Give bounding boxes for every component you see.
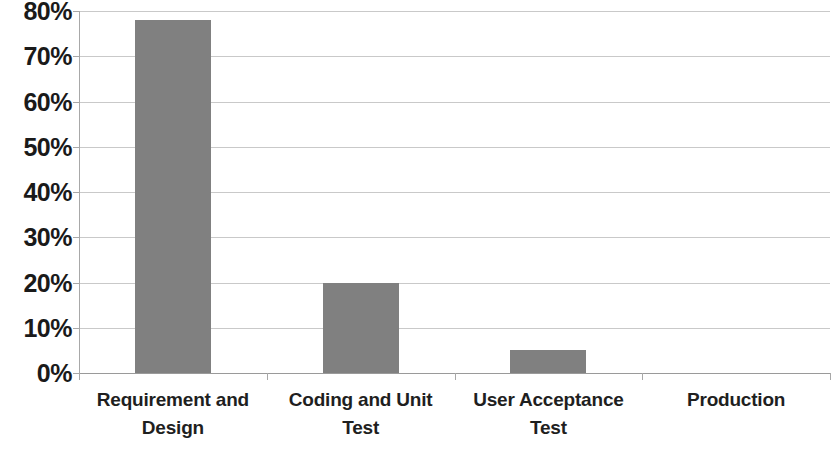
bar bbox=[323, 283, 399, 374]
y-axis-tick-label: 30% bbox=[6, 225, 72, 250]
bar bbox=[510, 350, 586, 373]
x-axis-tick bbox=[642, 373, 643, 380]
x-axis-category-label: Coding and Unit Test bbox=[267, 386, 455, 459]
y-axis-tick-label: 50% bbox=[6, 134, 72, 159]
bar-chart: 0%10%20%30%40%50%60%70%80% Requirement a… bbox=[0, 0, 835, 459]
y-axis-tick-label: 20% bbox=[6, 270, 72, 295]
x-axis-labels: Requirement and DesignCoding and Unit Te… bbox=[79, 386, 830, 459]
bar bbox=[135, 20, 211, 373]
x-axis-tick bbox=[455, 373, 456, 380]
x-axis-tick bbox=[830, 373, 831, 380]
y-axis-labels: 0%10%20%30%40%50%60%70%80% bbox=[0, 0, 72, 459]
plot-area bbox=[79, 11, 830, 373]
x-axis-tick bbox=[79, 373, 80, 380]
y-axis-tick-label: 60% bbox=[6, 89, 72, 114]
x-axis-category-label: User Acceptance Test bbox=[455, 386, 643, 459]
y-axis-tick-label: 70% bbox=[6, 44, 72, 69]
y-axis-tick-label: 40% bbox=[6, 180, 72, 205]
y-axis-tick-label: 10% bbox=[6, 315, 72, 340]
y-axis-tick-label: 80% bbox=[6, 0, 72, 24]
x-axis-category-label: Requirement and Design bbox=[79, 386, 267, 459]
x-axis-tick bbox=[267, 373, 268, 380]
x-axis-category-label: Production bbox=[642, 386, 830, 459]
y-axis-tick-label: 0% bbox=[6, 361, 72, 386]
